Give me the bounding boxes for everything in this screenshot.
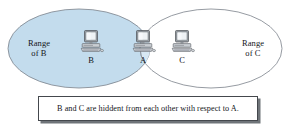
node-a-label: A — [126, 55, 160, 65]
range-c-label: Range of C — [228, 38, 278, 58]
range-b-label: Range of B — [14, 38, 64, 58]
caption-box: B and C are hiddent from each other with… — [38, 96, 258, 121]
computer-icon — [130, 29, 156, 55]
node-c: C — [165, 29, 199, 65]
computer-icon — [78, 29, 104, 55]
node-b: B — [74, 29, 108, 65]
node-b-label: B — [74, 55, 108, 65]
node-a: A — [126, 29, 160, 65]
caption-text: B and C are hiddent from each other with… — [57, 103, 239, 114]
computer-icon — [169, 29, 195, 55]
node-c-label: C — [165, 55, 199, 65]
hidden-terminal-figure: Range of B Range of C B — [0, 0, 290, 132]
